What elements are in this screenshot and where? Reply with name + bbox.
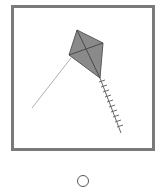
- kite-tail-bows: [99, 80, 123, 127]
- radio-state: unchecked: [78, 176, 79, 177]
- kite-body: [69, 30, 103, 78]
- radio-button[interactable]: unchecked: [77, 175, 89, 187]
- kite-string: [32, 58, 71, 108]
- image-choice-card[interactable]: unchecked: [0, 0, 159, 189]
- kite-icon: [0, 0, 159, 189]
